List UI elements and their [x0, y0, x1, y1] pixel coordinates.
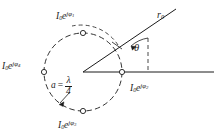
spacing-equals: = — [56, 80, 65, 90]
element-label-phi2: I0ejφ2 — [130, 83, 148, 94]
element-label-phi1: I0ejφ1 — [56, 11, 74, 22]
ray-label-r0: r0 — [157, 10, 164, 21]
element-marker-phi3 — [80, 108, 85, 113]
element-phi1-exp-sub: 1 — [72, 13, 74, 18]
element-marker-phi1 — [80, 30, 85, 35]
element-marker-phi4 — [41, 69, 46, 74]
spacing-denominator: 4 — [65, 87, 72, 97]
element-phi4-exp-sub: 4 — [18, 63, 20, 68]
ray-label-sub: 0 — [161, 13, 164, 20]
spacing-label: a=λ4 — [51, 76, 72, 96]
radius-leader-arrowhead — [59, 102, 64, 107]
element-label-phi4: I0ejφ4 — [2, 61, 20, 72]
phasor-array-figure: I0ejφ1 I0ejφ2 I0ejφ3 I0ejφ4 r0 θ a=λ4 — [0, 0, 214, 140]
element-marker-phi2 — [119, 69, 124, 74]
element-label-phi3: I0ejφ3 — [58, 120, 76, 131]
figure-canvas — [0, 0, 214, 140]
spacing-fraction: λ4 — [65, 76, 72, 96]
element-phi2-exp-sub: 2 — [146, 85, 148, 90]
element-phi3-exp-sub: 3 — [74, 122, 76, 127]
angle-label-theta: θ — [134, 43, 139, 54]
